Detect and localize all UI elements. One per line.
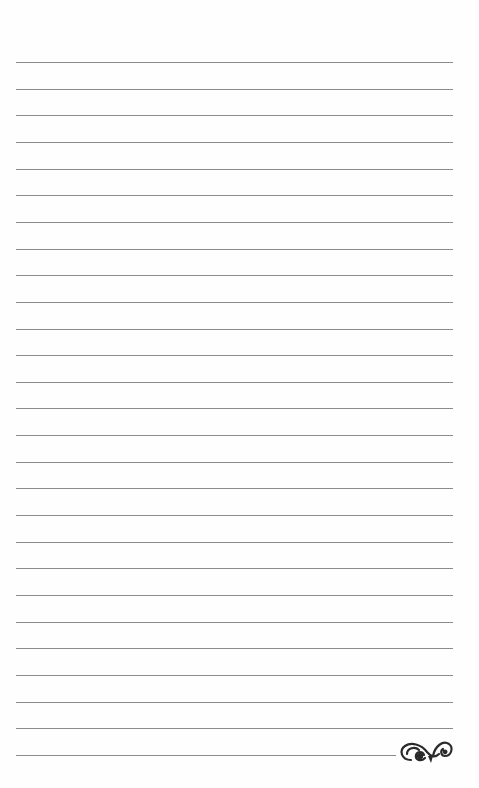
ruled-line bbox=[16, 89, 453, 90]
ruled-line bbox=[16, 355, 453, 356]
ruled-line bbox=[16, 702, 453, 703]
ruled-line bbox=[16, 755, 396, 756]
ruled-line bbox=[16, 568, 453, 569]
ruled-line bbox=[16, 62, 453, 63]
ruled-line bbox=[16, 142, 453, 143]
ruled-line bbox=[16, 488, 453, 489]
ruled-line bbox=[16, 675, 453, 676]
lined-notebook-page bbox=[0, 0, 479, 788]
ruled-line bbox=[16, 408, 453, 409]
ruled-line bbox=[16, 462, 453, 463]
flourish-ornament-icon bbox=[397, 738, 455, 764]
ruled-line bbox=[16, 515, 453, 516]
ruled-line bbox=[16, 275, 453, 276]
ruled-line bbox=[16, 169, 453, 170]
ruled-line bbox=[16, 195, 453, 196]
ruled-line bbox=[16, 648, 453, 649]
ruled-line bbox=[16, 382, 453, 383]
ruled-line bbox=[16, 595, 453, 596]
ruled-line bbox=[16, 249, 453, 250]
ruled-line bbox=[16, 115, 453, 116]
ruled-line bbox=[16, 222, 453, 223]
ruled-line bbox=[16, 435, 453, 436]
ruled-line bbox=[16, 622, 453, 623]
ruled-line bbox=[16, 542, 453, 543]
ruled-line bbox=[16, 728, 453, 729]
ruled-line bbox=[16, 302, 453, 303]
ruled-line bbox=[16, 329, 453, 330]
